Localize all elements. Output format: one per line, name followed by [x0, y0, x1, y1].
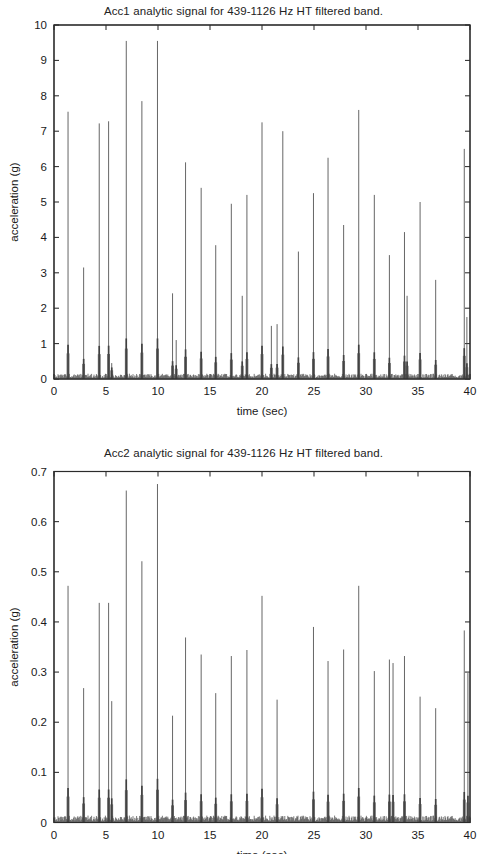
y-tick-label: 7: [41, 125, 47, 137]
y-tick-label: 0.6: [31, 516, 47, 528]
y-tick-label: 3: [41, 267, 47, 279]
y-tick-label: 0.2: [31, 716, 47, 728]
signal-peaks: [67, 41, 468, 379]
x-tick-label: 35: [412, 385, 425, 397]
y-tick-label: 2: [41, 302, 47, 314]
x-tick-label: 15: [204, 385, 217, 397]
x-tick-label: 30: [360, 829, 373, 841]
x-axis-title: time (sec): [237, 405, 288, 417]
plot-area-acc1: 0510152025303540012345678910time (sec)ac…: [0, 0, 487, 427]
y-tick-label: 0.7: [31, 466, 47, 478]
x-tick-label: 0: [51, 385, 57, 397]
x-tick-label: 15: [204, 829, 217, 841]
y-tick-label: 5: [41, 196, 47, 208]
y-tick-label: 0: [41, 373, 47, 385]
signal-peaks: [67, 484, 469, 822]
y-tick-label: 0.3: [31, 666, 47, 678]
x-tick-label: 20: [256, 829, 269, 841]
y-tick-label: 9: [41, 54, 47, 66]
y-tick-label: 6: [41, 161, 47, 173]
x-tick-label: 5: [103, 829, 109, 841]
x-tick-label: 5: [103, 385, 109, 397]
y-tick-label: 4: [41, 231, 48, 243]
x-tick-label: 25: [308, 385, 321, 397]
x-tick-label: 40: [464, 829, 477, 841]
x-tick-label: 20: [256, 385, 269, 397]
x-tick-label: 10: [152, 829, 165, 841]
y-tick-label: 8: [41, 90, 47, 102]
plot-area-acc2: 051015202530354000.10.20.30.40.50.60.7ti…: [0, 427, 487, 854]
figure-acc2: Acc2 analytic signal for 439-1126 Hz HT …: [0, 427, 487, 853]
x-tick-label: 25: [308, 829, 321, 841]
y-tick-label: 10: [34, 19, 47, 31]
x-tick-label: 40: [464, 385, 477, 397]
figure-acc1: Acc1 analytic signal for 439-1126 Hz HT …: [0, 0, 487, 427]
y-tick-label: 0.4: [31, 616, 48, 628]
y-tick-label: 1: [41, 338, 47, 350]
x-tick-label: 30: [360, 385, 373, 397]
x-tick-label: 10: [152, 385, 165, 397]
x-axis-title: time (sec): [237, 849, 288, 854]
y-tick-label: 0.5: [31, 566, 47, 578]
x-tick-label: 35: [412, 829, 425, 841]
y-tick-label: 0.1: [31, 766, 47, 778]
y-tick-label: 0: [41, 817, 47, 829]
y-axis-title: acceleration (g): [8, 162, 20, 241]
x-tick-label: 0: [51, 829, 57, 841]
y-axis-title: acceleration (g): [8, 607, 20, 686]
